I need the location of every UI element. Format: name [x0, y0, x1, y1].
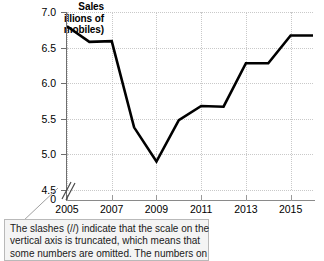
plot-area — [67, 12, 313, 190]
caption-line-3: some numbers are omitted. The numbers on — [10, 248, 203, 260]
caption-line-1: The slashes (//) indicate that the scale… — [10, 223, 203, 235]
y-axis-tick-label: 7.0 — [0, 7, 56, 18]
x-axis-tick — [112, 195, 113, 201]
y-axis-tick-label: 5.0 — [0, 149, 56, 160]
x-axis-tick-label: 2011 — [179, 203, 223, 215]
x-axis-tick-label: 2015 — [269, 203, 313, 215]
y-axis-tick — [61, 12, 67, 13]
y-axis-tick-label: 5.5 — [0, 114, 56, 125]
axis-truncation-caption: The slashes (//) indicate that the scale… — [4, 219, 209, 261]
x-axis-tick — [291, 195, 292, 201]
x-axis-tick-label: 2009 — [134, 203, 178, 215]
y-axis-tick-label: 6.0 — [0, 78, 56, 89]
y-axis-tick — [61, 48, 67, 49]
sales-line-series — [67, 12, 313, 190]
y-axis-tick — [61, 119, 67, 120]
gridline-horizontal — [67, 190, 313, 191]
y-axis-tick-label: 6.5 — [0, 43, 56, 54]
x-axis-tick — [156, 195, 157, 201]
y-axis-line — [66, 12, 67, 200]
y-axis-tick — [61, 154, 67, 155]
y-axis-tick — [61, 83, 67, 84]
x-axis-line — [66, 200, 315, 201]
x-axis-tick-label: 2007 — [90, 203, 134, 215]
caption-line-2: vertical axis is truncated, which means … — [10, 235, 203, 247]
x-axis-tick-label: 2013 — [224, 203, 268, 215]
x-axis-tick — [201, 195, 202, 201]
x-axis-tick — [246, 195, 247, 201]
